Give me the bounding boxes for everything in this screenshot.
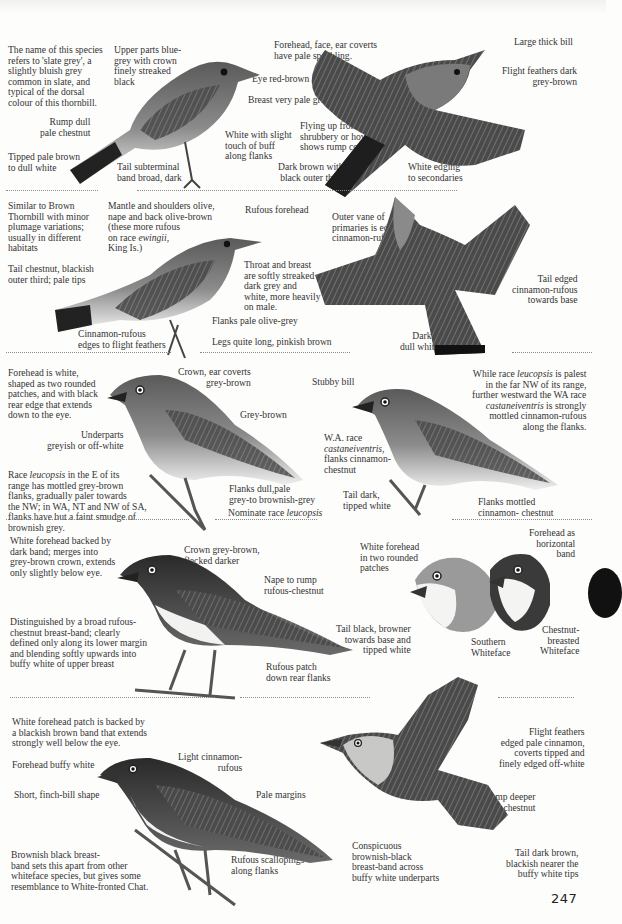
text-italic: leucopsis bbox=[517, 368, 553, 379]
whiteface-heads-comparison-illustration bbox=[405, 550, 550, 645]
slaty-thornbill-perched-illustration bbox=[60, 30, 270, 190]
tasmanian-thornbill-flying-illustration bbox=[315, 195, 545, 355]
label-short-bill: Short, finch-bill shape bbox=[14, 790, 100, 801]
label-white-forehead-band: White forehead backed by dark band; merg… bbox=[10, 536, 115, 578]
page-thumb-tab bbox=[588, 568, 622, 618]
text-italic: leucopsis bbox=[30, 469, 66, 480]
divider bbox=[512, 352, 592, 353]
banded-whiteface-perched-illustration bbox=[95, 755, 335, 910]
label-stubby-bill: Stubby bill bbox=[312, 377, 354, 388]
divider bbox=[137, 190, 457, 191]
label-forehead: Forehead is white, shaped as two rounded… bbox=[8, 368, 98, 421]
slaty-thornbill-flying-illustration bbox=[285, 25, 535, 200]
divider bbox=[10, 697, 215, 698]
tasmanian-thornbill-perched-illustration bbox=[50, 220, 270, 360]
divider bbox=[6, 519, 189, 520]
divider bbox=[215, 519, 317, 520]
southern-whiteface-nominate-illustration bbox=[105, 370, 305, 535]
divider bbox=[200, 352, 350, 353]
label-forehead-buffy: Forehead buffy white bbox=[12, 760, 94, 771]
text: While race bbox=[473, 368, 517, 379]
banded-whiteface-flying-illustration bbox=[318, 675, 518, 855]
divider bbox=[6, 190, 98, 191]
divider bbox=[452, 519, 592, 520]
divider bbox=[6, 352, 171, 353]
label-forehead-patch: White forehead patch is backed by a blac… bbox=[12, 717, 147, 749]
label-rufous-forehead: Rufous forehead bbox=[245, 205, 309, 216]
page-number: 247 bbox=[551, 891, 577, 906]
southern-whiteface-wa-race-illustration bbox=[350, 385, 560, 520]
text: Race bbox=[8, 469, 30, 480]
page-top-edge bbox=[0, 0, 606, 14]
